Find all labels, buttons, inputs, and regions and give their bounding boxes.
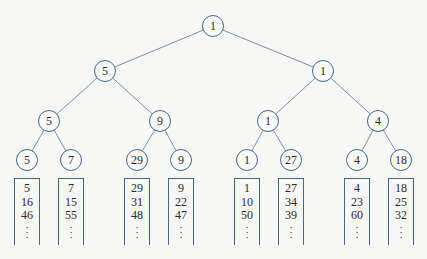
list-value: 18 xyxy=(395,182,407,196)
node-label: 29 xyxy=(131,153,143,168)
list-value: 22 xyxy=(175,196,187,210)
sorted-list-box: 71555··· xyxy=(58,178,84,245)
list-value: 7 xyxy=(68,182,74,196)
list-value: 34 xyxy=(285,196,297,210)
sorted-list-box: 51646··· xyxy=(14,178,40,245)
vertical-ellipsis-icon: ··· xyxy=(245,225,249,240)
node-label: 27 xyxy=(285,153,297,168)
list-value: 4 xyxy=(354,182,360,196)
sorted-list-box: 42360··· xyxy=(344,178,370,245)
tree-node: 4 xyxy=(367,110,389,132)
list-value: 29 xyxy=(131,182,143,196)
list-value: 5 xyxy=(24,182,30,196)
vertical-ellipsis-icon: ··· xyxy=(135,225,139,240)
sorted-list-box: 92247··· xyxy=(168,178,194,245)
sorted-list-box: 182532··· xyxy=(388,178,414,245)
list-value: 1 xyxy=(244,182,250,196)
node-label: 5 xyxy=(24,153,30,168)
vertical-ellipsis-icon: ··· xyxy=(179,225,183,240)
list-value: 27 xyxy=(285,182,297,196)
tree-node: 18 xyxy=(390,149,412,171)
tree-node: 5 xyxy=(16,149,38,171)
vertical-ellipsis-icon: ··· xyxy=(399,225,403,240)
tree-node: 5 xyxy=(38,110,60,132)
node-label: 1 xyxy=(244,153,250,168)
tree-node: 9 xyxy=(170,149,192,171)
vertical-ellipsis-icon: ··· xyxy=(355,225,359,240)
node-label: 5 xyxy=(46,114,52,129)
vertical-ellipsis-icon: ··· xyxy=(25,225,29,240)
tree-node: 7 xyxy=(60,149,82,171)
tree-node: 1 xyxy=(257,110,279,132)
list-value: 15 xyxy=(65,196,77,210)
list-value: 25 xyxy=(395,196,407,210)
tree-edge xyxy=(213,26,323,71)
tree-node: 27 xyxy=(280,149,302,171)
sorted-list-box: 293148··· xyxy=(124,178,150,245)
tree-node: 29 xyxy=(126,149,148,171)
node-label: 7 xyxy=(68,153,74,168)
sorted-list-box: 11050··· xyxy=(234,178,260,245)
list-value: 10 xyxy=(241,196,253,210)
sorted-list-box: 273439··· xyxy=(278,178,304,245)
node-label: 1 xyxy=(210,19,216,34)
tree-node: 4 xyxy=(346,149,368,171)
list-value: 23 xyxy=(351,196,363,210)
node-label: 5 xyxy=(102,64,108,79)
tree-node: 1 xyxy=(202,15,224,37)
tree-node: 1 xyxy=(236,149,258,171)
list-value: 16 xyxy=(21,196,33,210)
node-label: 4 xyxy=(375,114,381,129)
tree-node: 5 xyxy=(94,60,116,82)
list-value: 31 xyxy=(131,196,143,210)
list-value: 9 xyxy=(178,182,184,196)
node-label: 1 xyxy=(320,64,326,79)
node-label: 1 xyxy=(265,114,271,129)
node-label: 9 xyxy=(178,153,184,168)
node-label: 4 xyxy=(354,153,360,168)
vertical-ellipsis-icon: ··· xyxy=(69,225,73,240)
node-label: 18 xyxy=(395,153,407,168)
tree-edge xyxy=(105,26,213,71)
node-label: 9 xyxy=(157,114,163,129)
tree-node: 1 xyxy=(312,60,334,82)
tree-node: 9 xyxy=(149,110,171,132)
vertical-ellipsis-icon: ··· xyxy=(289,225,293,240)
